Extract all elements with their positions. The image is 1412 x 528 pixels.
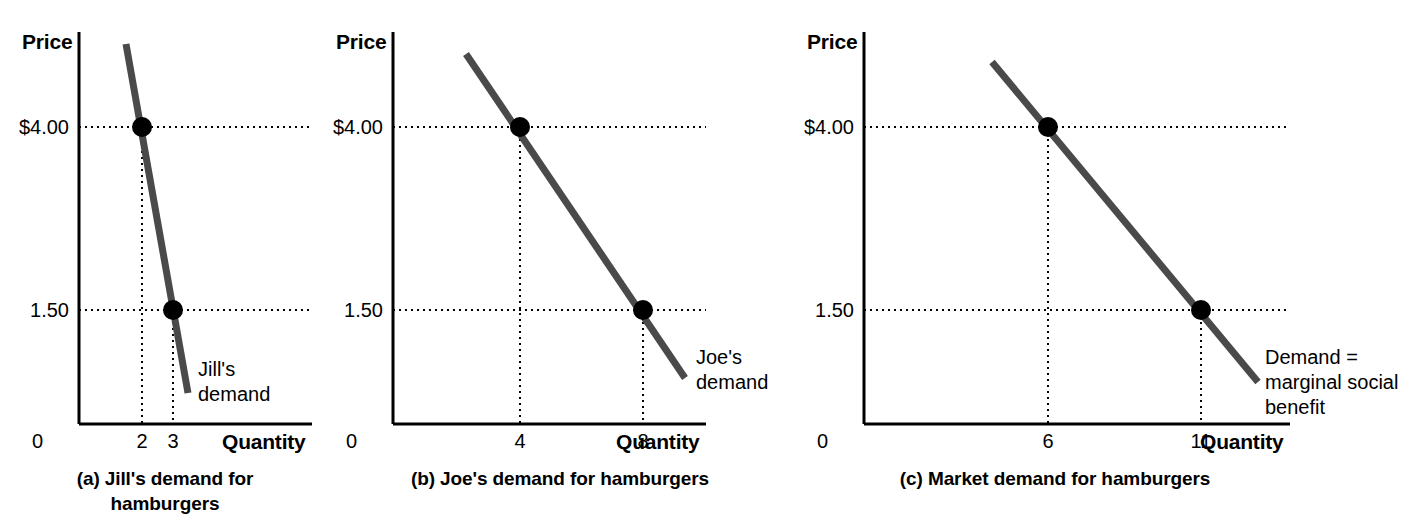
y-tick-label-4: $4.00 — [0, 116, 69, 139]
curve-label-jills-demand: Jill's demand — [198, 357, 270, 407]
curve-label-market-demand: Demand = marginal social benefit — [1265, 345, 1398, 420]
origin-label: 0 — [32, 430, 43, 453]
data-point — [510, 117, 530, 137]
x-tick-label-8: 8 — [623, 430, 663, 453]
y-tick-label-1-50: 1.50 — [785, 299, 854, 322]
demand-curves-figure: Price Quantity $4.00 1.50 0 2 3 Jill's d… — [0, 0, 1412, 528]
data-point — [633, 300, 653, 320]
curve-label-joes-demand: Joe's demand — [696, 345, 768, 395]
data-point — [163, 300, 183, 320]
panel-caption-b: (b) Joe's demand for hamburgers — [350, 466, 770, 491]
y-axis-title: Price — [807, 30, 857, 54]
demand-curve-joe — [466, 54, 685, 378]
demand-curve-market — [992, 62, 1258, 382]
panel-joes-demand: Price Quantity $4.00 1.50 0 4 8 Joe's de… — [330, 0, 800, 528]
origin-label: 0 — [817, 430, 828, 453]
x-tick-label-3: 3 — [153, 430, 193, 453]
data-point — [1191, 300, 1211, 320]
y-tick-label-1-50: 1.50 — [314, 299, 383, 322]
y-axis-title: Price — [336, 30, 386, 54]
x-axis-title: Quantity — [222, 430, 306, 454]
y-tick-label-1-50: 1.50 — [0, 299, 69, 322]
panel-caption-a: (a) Jill's demand for hamburgers — [20, 466, 310, 516]
y-tick-label-4: $4.00 — [785, 116, 854, 139]
data-point — [1038, 117, 1058, 137]
panel-caption-c: (c) Market demand for hamburgers — [820, 466, 1290, 491]
data-point — [132, 117, 152, 137]
origin-label: 0 — [346, 430, 357, 453]
panel-jills-demand: Price Quantity $4.00 1.50 0 2 3 Jill's d… — [0, 0, 330, 528]
panel-market-demand: Price Quantity $4.00 1.50 0 6 11 Demand … — [800, 0, 1412, 528]
y-tick-label-4: $4.00 — [314, 116, 383, 139]
x-tick-label-6: 6 — [1028, 430, 1068, 453]
x-tick-label-11: 11 — [1181, 430, 1221, 453]
x-tick-label-4: 4 — [500, 430, 540, 453]
y-axis-title: Price — [22, 30, 72, 54]
panel-b-plot — [330, 0, 800, 528]
panel-c-plot — [800, 0, 1412, 528]
demand-curve-jill — [126, 44, 188, 393]
